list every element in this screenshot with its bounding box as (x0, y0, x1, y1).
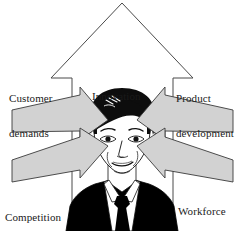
innovation-text: Innovation (92, 91, 141, 103)
competition-text: Competition (5, 212, 61, 224)
label-product-development: Product development (176, 70, 234, 162)
label-competition: Competition (5, 189, 61, 231)
product-development-line-1: Product (176, 93, 234, 105)
pupil-right (133, 136, 138, 141)
innovation-diagram: Innovation Customer demands Product deve… (0, 0, 245, 231)
pupil-left (105, 136, 110, 141)
product-development-line-2: development (176, 128, 234, 140)
customer-demands-line-1: Customer (9, 93, 53, 105)
workforce-practice-line-1: Workforce (178, 206, 226, 218)
label-customer-demands: Customer demands (9, 70, 53, 162)
customer-demands-line-2: demands (9, 128, 53, 140)
tie-knot (114, 196, 130, 208)
label-innovation: Innovation (92, 68, 141, 126)
label-workforce-practice: Workforce practice (178, 183, 226, 231)
